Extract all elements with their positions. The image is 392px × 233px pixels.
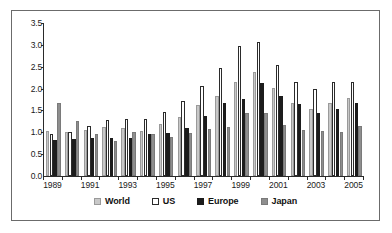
x-axis-tick-label: 1999 [231,180,250,191]
y-axis-tick-label: 1.5 [16,106,42,114]
x-axis-labels: 198919911993199519971999200120032005 [43,180,364,194]
world-swatch [94,198,101,205]
x-axis-tick-mark [43,176,44,180]
bar-japan-1992[interactable] [114,141,117,176]
bar-japan-2003[interactable] [321,131,324,176]
bar-group [272,23,287,176]
bar-group [253,23,268,176]
bar-group [84,23,99,176]
bar-us-2005[interactable] [351,82,354,176]
bar-japan-1995[interactable] [170,137,173,176]
bar-japan-1996[interactable] [189,133,192,176]
y-axis-tick-mark [41,89,44,90]
x-axis-tick-mark [363,176,364,180]
bar-us-1991[interactable] [87,126,90,176]
y-axis-tick-label: 3.5 [16,19,42,27]
bar-group [159,23,174,176]
bar-us-2004[interactable] [332,82,335,176]
plot-area [43,23,364,177]
x-axis-tick-label: 2003 [307,180,326,191]
legend-item-us[interactable]: US [152,197,175,206]
japan-swatch [261,198,268,205]
bar-group [328,23,343,176]
bars-layer [44,23,364,176]
bar-japan-1997[interactable] [208,129,211,176]
y-axis-tick-mark [41,45,44,46]
bar-group [347,23,362,176]
bar-japan-1998[interactable] [227,127,230,176]
bar-japan-1990[interactable] [76,121,79,176]
legend-item-japan[interactable]: Japan [261,197,298,206]
chart-legend: WorldUSEuropeJapan [12,197,379,206]
x-axis-tick-mark [212,176,213,180]
bar-us-2002[interactable] [294,82,297,176]
bar-japan-1993[interactable] [132,132,135,176]
x-axis-tick-mark [250,176,251,180]
bar-us-2000[interactable] [257,42,260,176]
x-axis-tick-mark [62,176,63,180]
legend-item-world[interactable]: World [94,197,130,206]
bar-japan-2005[interactable] [358,126,361,176]
legend-label: Europe [208,197,238,206]
bar-group [140,23,155,176]
bar-group [196,23,211,176]
legend-label: Japan [272,197,298,206]
bar-us-1999[interactable] [238,46,241,176]
bar-group [309,23,324,176]
bar-us-1994[interactable] [144,119,147,176]
x-axis-tick-mark [194,176,195,180]
x-axis-tick-mark [288,176,289,180]
y-axis-tick-mark [41,67,44,68]
bar-us-1992[interactable] [106,120,109,176]
bar-group [46,23,61,176]
bar-japan-1989[interactable] [57,103,60,176]
y-axis-tick-mark [41,110,44,111]
bar-japan-1991[interactable] [95,134,98,176]
bar-us-1997[interactable] [200,86,203,176]
x-axis-tick-mark [99,176,100,180]
x-axis-tick-mark [156,176,157,180]
y-axis-tick-label: 1.0 [16,128,42,136]
bar-japan-2002[interactable] [302,130,305,176]
bar-us-1993[interactable] [125,119,128,176]
bar-japan-2001[interactable] [283,125,286,176]
bar-japan-2004[interactable] [340,132,343,176]
bar-japan-1994[interactable] [151,134,154,176]
bar-group [102,23,117,176]
bar-japan-1999[interactable] [245,113,248,176]
x-axis-tick-label: 2005 [344,180,363,191]
y-axis-tick-label: 2.5 [16,63,42,71]
bar-group [178,23,193,176]
legend-label: US [163,197,175,206]
y-axis-tick-mark [41,23,44,24]
x-axis-tick-mark [137,176,138,180]
bar-us-1990[interactable] [68,132,71,176]
legend-item-europe[interactable]: Europe [197,197,238,206]
bar-us-1995[interactable] [163,112,166,176]
bar-japan-2000[interactable] [264,113,267,176]
x-axis-tick-mark [344,176,345,180]
us-swatch [152,198,159,205]
y-axis-tick-mark [41,132,44,133]
x-axis-tick-mark [175,176,176,180]
y-axis-labels: 0.00.51.01.52.02.53.03.5 [16,23,42,176]
legend-label: World [105,197,130,206]
x-axis-tick-mark [81,176,82,180]
bar-group [215,23,230,176]
bar-us-2001[interactable] [276,65,279,176]
y-axis-tick-label: 0.5 [16,150,42,158]
x-axis-tick-mark [325,176,326,180]
x-axis-tick-mark [269,176,270,180]
x-axis-tick-mark [231,176,232,180]
bar-us-1998[interactable] [219,68,222,176]
bar-us-1989[interactable] [50,134,53,176]
y-axis-tick-label: 3.0 [16,41,42,49]
bar-us-1996[interactable] [181,101,184,176]
x-axis-tick-label: 1991 [81,180,100,191]
x-axis-tick-label: 1989 [43,180,62,191]
bar-group [234,23,249,176]
x-axis-tick-label: 1997 [194,180,213,191]
x-axis-tick-mark [307,176,308,180]
bar-us-2003[interactable] [313,89,316,176]
bar-group [121,23,136,176]
